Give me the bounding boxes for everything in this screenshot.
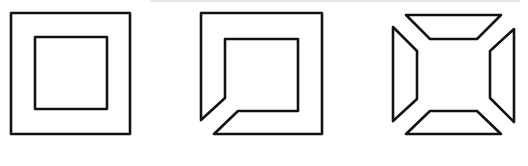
panel-concentric-squares (11, 13, 130, 134)
outer-square (11, 13, 130, 134)
trapezoid-left (393, 27, 417, 121)
cut-frame-outline (201, 13, 322, 134)
trapezoid-top (406, 15, 501, 39)
inner-square (35, 37, 107, 109)
diagram-canvas (0, 0, 528, 166)
panel-cut-square-frame (201, 13, 322, 134)
trapezoid-bottom (406, 111, 501, 134)
panel-four-trapezoids (393, 15, 514, 134)
trapezoid-right (490, 29, 514, 122)
